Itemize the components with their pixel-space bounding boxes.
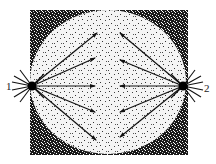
nucleus-circle bbox=[30, 10, 186, 154]
pole-1-label: 1 bbox=[6, 81, 12, 92]
pole-2-label: 2 bbox=[204, 83, 210, 94]
spindle-diagram bbox=[0, 0, 216, 164]
